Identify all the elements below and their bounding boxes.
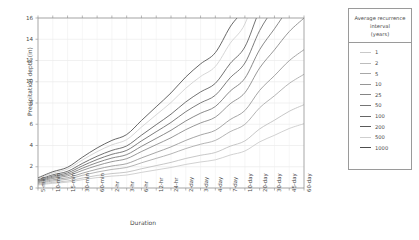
legend-swatch-500 <box>360 137 371 138</box>
x-tick-label: 12-hr <box>158 178 164 192</box>
y-tick-label: 4 <box>17 142 33 148</box>
y-tick-label: 0 <box>17 185 33 191</box>
legend-swatch-200 <box>360 126 371 127</box>
x-tick-label: 6-hr <box>143 181 149 192</box>
legend-item-500[interactable]: 500 <box>349 132 411 143</box>
legend-swatch-5 <box>360 73 371 74</box>
x-tick-label: 30-min <box>84 173 90 192</box>
legend-item-5[interactable]: 5 <box>349 68 411 79</box>
legend-label-200: 200 <box>375 124 385 130</box>
x-tick-label: 5-min <box>40 176 46 192</box>
x-tick-label: 30-day <box>276 173 282 192</box>
legend-swatch-2 <box>360 63 371 64</box>
x-tick-label: 2-hr <box>114 181 120 192</box>
legend: Average recurrence interval (years) 1251… <box>348 8 412 170</box>
x-tick-label: 20-day <box>262 173 268 192</box>
legend-label-500: 500 <box>375 134 385 140</box>
legend-label-1: 1 <box>375 49 378 55</box>
legend-item-100[interactable]: 100 <box>349 111 411 122</box>
legend-label-2: 2 <box>375 60 378 66</box>
legend-swatch-10 <box>360 84 371 85</box>
legend-items: 1251025501002005001000 <box>349 43 411 153</box>
legend-item-50[interactable]: 50 <box>349 100 411 111</box>
plot-area-wrapper: Precipitation depth (in) Duration 024681… <box>0 0 340 240</box>
precipitation-frequency-chart: Precipitation depth (in) Duration 024681… <box>0 0 419 240</box>
x-tick-label: 3-hr <box>129 181 135 192</box>
x-tick-label: 4-day <box>217 177 223 192</box>
y-tick-label: 2 <box>17 163 33 169</box>
x-tick-label: 45-day <box>291 173 297 192</box>
x-tick-label: 7-day <box>232 177 238 192</box>
legend-label-5: 5 <box>375 71 378 77</box>
y-tick-label: 8 <box>17 100 33 106</box>
legend-swatch-1000 <box>360 147 371 148</box>
y-tick-label: 10 <box>17 78 33 84</box>
y-tick-label: 6 <box>17 121 33 127</box>
x-tick-label: 15-min <box>70 173 76 192</box>
x-tick-label: 2-day <box>188 177 194 192</box>
y-tick-label: 14 <box>17 36 33 42</box>
legend-label-25: 25 <box>375 92 382 98</box>
legend-swatch-25 <box>360 94 371 95</box>
legend-swatch-1 <box>360 52 371 53</box>
legend-label-50: 50 <box>375 102 382 108</box>
legend-swatch-100 <box>360 116 371 117</box>
legend-item-1000[interactable]: 1000 <box>349 143 411 154</box>
x-axis-title: Duration <box>130 219 156 226</box>
legend-item-200[interactable]: 200 <box>349 121 411 132</box>
x-tick-label: 3-day <box>203 177 209 192</box>
x-tick-label: 60-min <box>99 173 105 192</box>
legend-item-25[interactable]: 25 <box>349 90 411 101</box>
legend-item-10[interactable]: 10 <box>349 79 411 90</box>
legend-item-2[interactable]: 2 <box>349 58 411 69</box>
legend-title: Average recurrence interval (years) <box>349 9 411 43</box>
x-tick-label: 10-day <box>247 173 253 192</box>
legend-title-line-1: Average recurrence <box>352 14 408 22</box>
x-tick-label: 24-hr <box>173 178 179 192</box>
legend-label-100: 100 <box>375 113 385 119</box>
legend-label-10: 10 <box>375 81 382 87</box>
y-tick-label: 12 <box>17 57 33 63</box>
y-tick-label: 16 <box>17 15 33 21</box>
legend-item-1[interactable]: 1 <box>349 47 411 58</box>
x-tick-label: 10-min <box>55 173 61 192</box>
legend-swatch-50 <box>360 105 371 106</box>
legend-title-line-2: interval <box>352 22 408 30</box>
legend-title-line-3: (years) <box>352 30 408 38</box>
legend-label-1000: 1000 <box>375 145 388 151</box>
chart-canvas <box>0 0 340 240</box>
x-tick-label: 60-day <box>306 173 312 192</box>
